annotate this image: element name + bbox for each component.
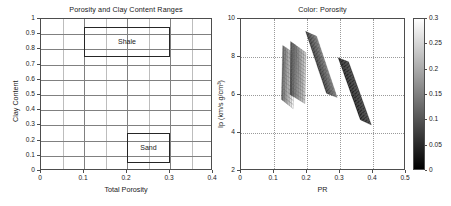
y-tick-mark bbox=[37, 140, 40, 141]
y-tick-label: 10 bbox=[217, 14, 235, 21]
y-tick-mark bbox=[237, 132, 240, 133]
y-tick-mark bbox=[37, 124, 40, 125]
x-tick-label: 0.3 bbox=[329, 174, 349, 181]
y-tick-mark bbox=[237, 170, 240, 171]
y-tick-mark bbox=[237, 94, 240, 95]
x-tick-mark bbox=[83, 170, 84, 173]
colorbar-tick-label: 0.05 bbox=[429, 141, 442, 148]
right-x-axis-label: PR bbox=[240, 185, 405, 194]
x-tick-label: 0.2 bbox=[296, 174, 316, 181]
x-tick-label: 0.5 bbox=[395, 174, 415, 181]
y-tick-mark bbox=[37, 64, 40, 65]
colorbar-tick-label: 0.1 bbox=[429, 115, 438, 122]
colorbar-tick-label: 0.25 bbox=[429, 39, 442, 46]
region-rect-sand: Sand bbox=[127, 133, 170, 163]
x-tick-mark bbox=[126, 170, 127, 173]
left-plot-area: ShaleSand bbox=[40, 18, 212, 170]
x-tick-mark bbox=[240, 170, 241, 173]
x-tick-mark bbox=[273, 170, 274, 173]
y-tick-label: 0.8 bbox=[13, 44, 35, 51]
region-rect-shale: Shale bbox=[84, 27, 170, 57]
colorbar-tick-mark bbox=[425, 69, 427, 70]
colorbar-tick-mark bbox=[425, 145, 427, 146]
porosity-colorbar bbox=[413, 18, 425, 170]
x-tick-mark bbox=[169, 170, 170, 173]
x-tick-mark bbox=[212, 170, 213, 173]
y-tick-label: 1 bbox=[13, 14, 35, 21]
x-tick-mark bbox=[339, 170, 340, 173]
x-tick-label: 0.4 bbox=[202, 174, 222, 181]
x-tick-mark bbox=[306, 170, 307, 173]
left-region-rectangles: ShaleSand bbox=[41, 19, 211, 169]
y-tick-mark bbox=[237, 56, 240, 57]
colorbar-tick-mark bbox=[425, 119, 427, 120]
y-tick-label: 0 bbox=[13, 166, 35, 173]
colorbar-tick-mark bbox=[425, 43, 427, 44]
colorbar-gradient bbox=[414, 19, 424, 169]
left-chart-title: Porosity and Clay Content Ranges bbox=[40, 5, 212, 14]
right-y-axis-label: Ip (km/s g/cm³) bbox=[216, 80, 225, 128]
x-tick-mark bbox=[372, 170, 373, 173]
x-tick-label: 0.1 bbox=[73, 174, 93, 181]
colorbar-tick-mark bbox=[425, 94, 427, 95]
right-plot-area bbox=[240, 18, 405, 170]
mesh-patch-3 bbox=[306, 31, 338, 97]
y-tick-mark bbox=[37, 48, 40, 49]
y-tick-label: 4 bbox=[217, 128, 235, 135]
y-tick-mark bbox=[37, 155, 40, 156]
region-label-shale: Shale bbox=[85, 38, 169, 45]
mesh-patch-2 bbox=[290, 41, 306, 103]
colorbar-tick-label: 0 bbox=[429, 166, 433, 173]
colorbar-tick-mark bbox=[425, 170, 427, 171]
x-tick-mark bbox=[405, 170, 406, 173]
y-tick-mark bbox=[37, 33, 40, 34]
region-label-sand: Sand bbox=[128, 144, 169, 151]
x-tick-label: 0 bbox=[230, 174, 250, 181]
y-tick-label: 0.2 bbox=[13, 136, 35, 143]
left-y-axis-label: Clay Content bbox=[11, 80, 20, 122]
mesh-patch-4 bbox=[338, 58, 371, 125]
colorbar-tick-label: 0.15 bbox=[429, 90, 442, 97]
y-tick-label: 8 bbox=[217, 52, 235, 59]
left-x-axis-label: Total Porosity bbox=[40, 185, 212, 194]
y-tick-mark bbox=[237, 18, 240, 19]
colorbar-tick-label: 0.2 bbox=[429, 65, 438, 72]
y-tick-mark bbox=[37, 94, 40, 95]
x-tick-label: 0.3 bbox=[159, 174, 179, 181]
x-tick-label: 0 bbox=[30, 174, 50, 181]
x-tick-mark bbox=[40, 170, 41, 173]
y-tick-label: 0.9 bbox=[13, 29, 35, 36]
x-tick-label: 0.1 bbox=[263, 174, 283, 181]
x-tick-label: 0.2 bbox=[116, 174, 136, 181]
mesh-surface-patches bbox=[241, 19, 404, 170]
y-tick-mark bbox=[37, 18, 40, 19]
x-tick-label: 0.4 bbox=[362, 174, 382, 181]
colorbar-tick-label: 0.3 bbox=[429, 14, 438, 21]
colorbar-tick-mark bbox=[425, 18, 427, 19]
y-tick-mark bbox=[37, 79, 40, 80]
y-tick-label: 0.7 bbox=[13, 60, 35, 67]
y-tick-label: 2 bbox=[217, 166, 235, 173]
y-tick-mark bbox=[37, 170, 40, 171]
y-tick-label: 0.1 bbox=[13, 151, 35, 158]
right-chart-title: Color: Porosity bbox=[240, 5, 405, 14]
y-tick-mark bbox=[37, 109, 40, 110]
figure-root: Porosity and Clay Content Ranges ShaleSa… bbox=[0, 0, 451, 206]
